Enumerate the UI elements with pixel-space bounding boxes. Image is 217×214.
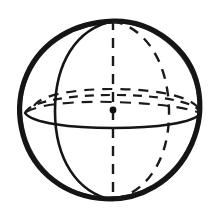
meridian-back-ellipse — [113, 21, 169, 200]
sphere-figure: Sphere wireframe Hand-drawn sphere shown… — [0, 0, 217, 214]
sphere-center-dot — [110, 107, 117, 114]
meridian-front-ellipse — [55, 21, 113, 200]
sphere-diagram-canvas — [0, 0, 217, 214]
meridian-front-group — [55, 21, 113, 200]
